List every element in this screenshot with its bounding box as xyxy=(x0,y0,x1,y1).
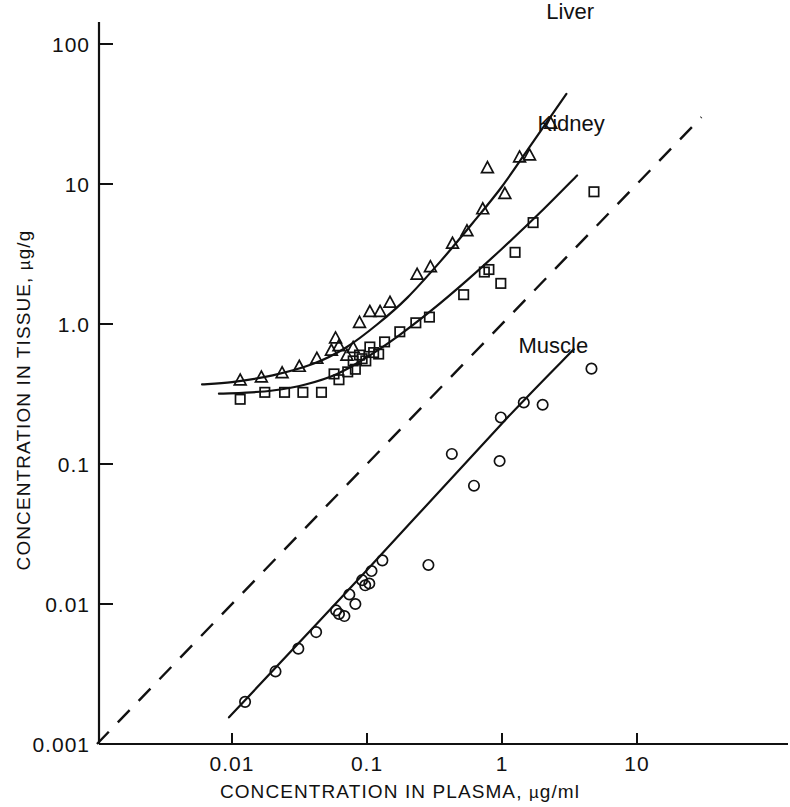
x-tick-label-2: 1 xyxy=(496,752,509,775)
data-point-liver-7 xyxy=(333,340,345,351)
fit-curve-muscle xyxy=(229,349,574,717)
series-label-muscle: Muscle xyxy=(518,333,588,358)
data-point-muscle-18 xyxy=(496,412,506,422)
fit-curve-kidney xyxy=(219,176,577,394)
data-point-liver-13 xyxy=(384,296,396,307)
data-point-muscle-8 xyxy=(350,599,360,609)
y-tick-label-2: 1.0 xyxy=(58,313,90,336)
data-point-liver-14 xyxy=(411,268,423,279)
y-tick-label-5: 0.001 xyxy=(32,733,90,756)
data-point-kidney-26 xyxy=(589,187,598,196)
data-point-kidney-3 xyxy=(298,388,307,397)
data-point-kidney-4 xyxy=(317,388,326,397)
data-point-muscle-15 xyxy=(447,449,457,459)
figure-container: 0.010.1110100101.00.10.010.001 LiverKidn… xyxy=(0,0,790,807)
series-liver xyxy=(234,117,556,385)
data-point-muscle-16 xyxy=(469,480,479,490)
data-point-muscle-0 xyxy=(240,697,250,707)
log-log-scatter-chart: 0.010.1110100101.00.10.010.001 LiverKidn… xyxy=(0,0,790,807)
data-point-muscle-3 xyxy=(311,627,321,637)
y-tick-label-4: 0.01 xyxy=(45,593,90,616)
data-point-kidney-0 xyxy=(235,395,244,404)
data-point-kidney-23 xyxy=(496,279,505,288)
data-point-muscle-14 xyxy=(423,560,433,570)
unity-line xyxy=(97,117,701,744)
y-tick-label-1: 10 xyxy=(65,173,90,196)
series-muscle xyxy=(240,363,597,707)
data-point-muscle-21 xyxy=(586,363,596,373)
data-point-muscle-13 xyxy=(377,555,387,565)
tick-labels: 0.010.1110100101.00.10.010.001 xyxy=(32,33,649,775)
x-tick-label-1: 0.1 xyxy=(351,752,383,775)
y-axis-title: CONCENTRATION IN TISSUE, µg/g xyxy=(13,230,34,571)
data-point-kidney-20 xyxy=(459,290,468,299)
data-point-kidney-24 xyxy=(510,248,519,257)
data-point-muscle-17 xyxy=(494,456,504,466)
data-point-liver-10 xyxy=(354,316,366,327)
x-tick-label-0: 0.01 xyxy=(210,752,255,775)
y-tick-label-0: 100 xyxy=(52,33,90,56)
x-axis-title: CONCENTRATION IN PLASMA, µg/ml xyxy=(220,781,580,802)
series-label-liver: Liver xyxy=(546,0,594,24)
data-point-muscle-12 xyxy=(366,566,376,576)
series-annotations: LiverKidneyMuscle xyxy=(518,0,604,358)
x-tick-label-3: 10 xyxy=(624,752,649,775)
fit-curves xyxy=(202,94,577,717)
data-point-liver-11 xyxy=(364,306,376,317)
data-point-liver-15 xyxy=(425,261,437,272)
unity-reference-line xyxy=(97,117,701,744)
data-point-muscle-20 xyxy=(537,400,547,410)
series-label-kidney: Kidney xyxy=(537,111,604,136)
data-point-liver-19 xyxy=(482,162,494,173)
data-point-muscle-7 xyxy=(344,589,354,599)
y-tick-label-3: 0.1 xyxy=(58,453,90,476)
